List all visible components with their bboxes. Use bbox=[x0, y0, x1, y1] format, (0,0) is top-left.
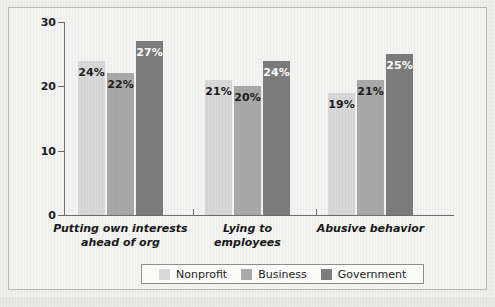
y-axis-label-20: 20 bbox=[16, 81, 56, 92]
page-bottom-strip bbox=[0, 297, 495, 307]
bar-group-3: 19%21%25% bbox=[328, 22, 413, 215]
plot-area: 24%22%27%21%20%24%19%21%25% bbox=[65, 22, 453, 215]
bar-value-label: 21% bbox=[205, 86, 231, 97]
legend-swatch-icon bbox=[241, 269, 252, 280]
legend-label: Government bbox=[338, 269, 407, 280]
legend-swatch-icon bbox=[321, 269, 332, 280]
bar-business-3[interactable]: 21% bbox=[357, 80, 384, 215]
y-axis-labels: 3020100 bbox=[8, 0, 56, 307]
category-label-line: Abusive behavior bbox=[291, 222, 451, 236]
bar-value-label: 24% bbox=[78, 67, 104, 78]
bar-value-label: 24% bbox=[263, 67, 289, 78]
bar-value-label: 25% bbox=[386, 60, 412, 71]
chart-legend: NonprofitBusinessGovernment bbox=[141, 264, 424, 284]
y-axis-label-30: 30 bbox=[16, 17, 56, 28]
legend-label: Nonprofit bbox=[176, 269, 227, 280]
bar-group-1: 24%22%27% bbox=[78, 22, 163, 215]
legend-swatch-icon bbox=[159, 269, 170, 280]
bar-value-label: 20% bbox=[234, 92, 260, 103]
x-axis-line bbox=[64, 215, 454, 216]
bar-government-2[interactable]: 24% bbox=[263, 61, 290, 215]
legend-item-business[interactable]: Business bbox=[241, 269, 307, 280]
y-axis-tick-0 bbox=[58, 215, 65, 216]
bar-government-3[interactable]: 25% bbox=[386, 54, 413, 215]
chart-page: 3020100 24%22%27%21%20%24%19%21%25% Putt… bbox=[0, 0, 495, 307]
bar-government-1[interactable]: 27% bbox=[136, 41, 163, 215]
legend-label: Business bbox=[258, 269, 307, 280]
y-axis-label-0: 0 bbox=[16, 210, 56, 221]
bar-nonprofit-2[interactable]: 21% bbox=[205, 80, 232, 215]
bar-business-2[interactable]: 20% bbox=[234, 86, 261, 215]
y-axis-label-10: 10 bbox=[16, 146, 56, 157]
bar-group-2: 21%20%24% bbox=[205, 22, 290, 215]
legend-item-government[interactable]: Government bbox=[321, 269, 407, 280]
bar-business-1[interactable]: 22% bbox=[107, 73, 134, 215]
bar-nonprofit-3[interactable]: 19% bbox=[328, 93, 355, 215]
bar-value-label: 22% bbox=[107, 79, 133, 90]
bar-nonprofit-1[interactable]: 24% bbox=[78, 61, 105, 215]
category-label-line: employees bbox=[168, 236, 328, 250]
y-axis-tick-20 bbox=[58, 86, 65, 87]
bar-value-label: 27% bbox=[136, 47, 162, 58]
category-label-3: Abusive behavior bbox=[291, 222, 451, 236]
bar-value-label: 19% bbox=[328, 99, 354, 110]
y-axis-tick-30 bbox=[58, 22, 65, 23]
legend-item-nonprofit[interactable]: Nonprofit bbox=[159, 269, 227, 280]
bar-value-label: 21% bbox=[357, 86, 383, 97]
y-axis-tick-10 bbox=[58, 151, 65, 152]
